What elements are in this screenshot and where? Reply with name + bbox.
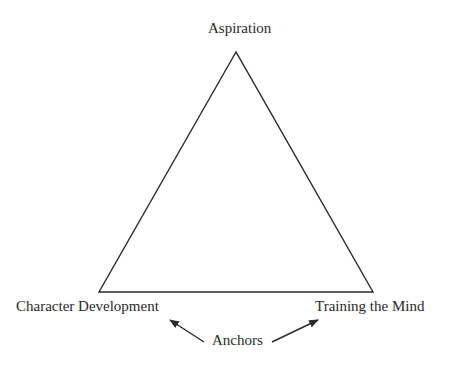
arrow-to-training-the-mind xyxy=(272,320,318,342)
vertex-label-training-the-mind: Training the Mind xyxy=(315,298,424,315)
anchors-label: Anchors xyxy=(212,332,263,349)
vertex-label-character-development: Character Development xyxy=(16,298,159,315)
vertex-label-aspiration: Aspiration xyxy=(208,20,271,37)
arrow-to-character-development xyxy=(170,320,204,342)
triangle-shape xyxy=(99,52,373,292)
